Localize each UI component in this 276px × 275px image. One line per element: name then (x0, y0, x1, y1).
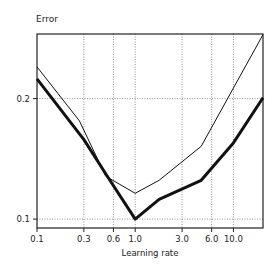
y-tick-label: 0.1 (16, 214, 30, 224)
x-tick-label: 3.0 (175, 234, 189, 244)
y-axis-ticks: 0.10.2 (16, 94, 37, 224)
x-tick-label: 6.0 (205, 234, 219, 244)
plot-frame (37, 34, 263, 228)
thick-line (37, 79, 263, 219)
y-tick-label: 0.2 (16, 94, 30, 104)
x-tick-label: 0.3 (77, 234, 91, 244)
x-tick-label: 10.0 (224, 234, 243, 244)
x-tick-label: 0.6 (107, 234, 121, 244)
x-tick-label: 1.0 (128, 234, 142, 244)
series-lines (37, 35, 263, 220)
x-axis-label: Learning rate (122, 248, 179, 258)
line-chart: 0.10.30.61.03.06.010.0 0.10.2 Error Lear… (0, 0, 276, 275)
x-axis-ticks: 0.10.30.61.03.06.010.0 (30, 228, 243, 244)
thin-line (37, 35, 263, 194)
x-tick-label: 0.1 (30, 234, 44, 244)
grid-lines (37, 34, 263, 228)
y-axis-label: Error (36, 14, 58, 24)
